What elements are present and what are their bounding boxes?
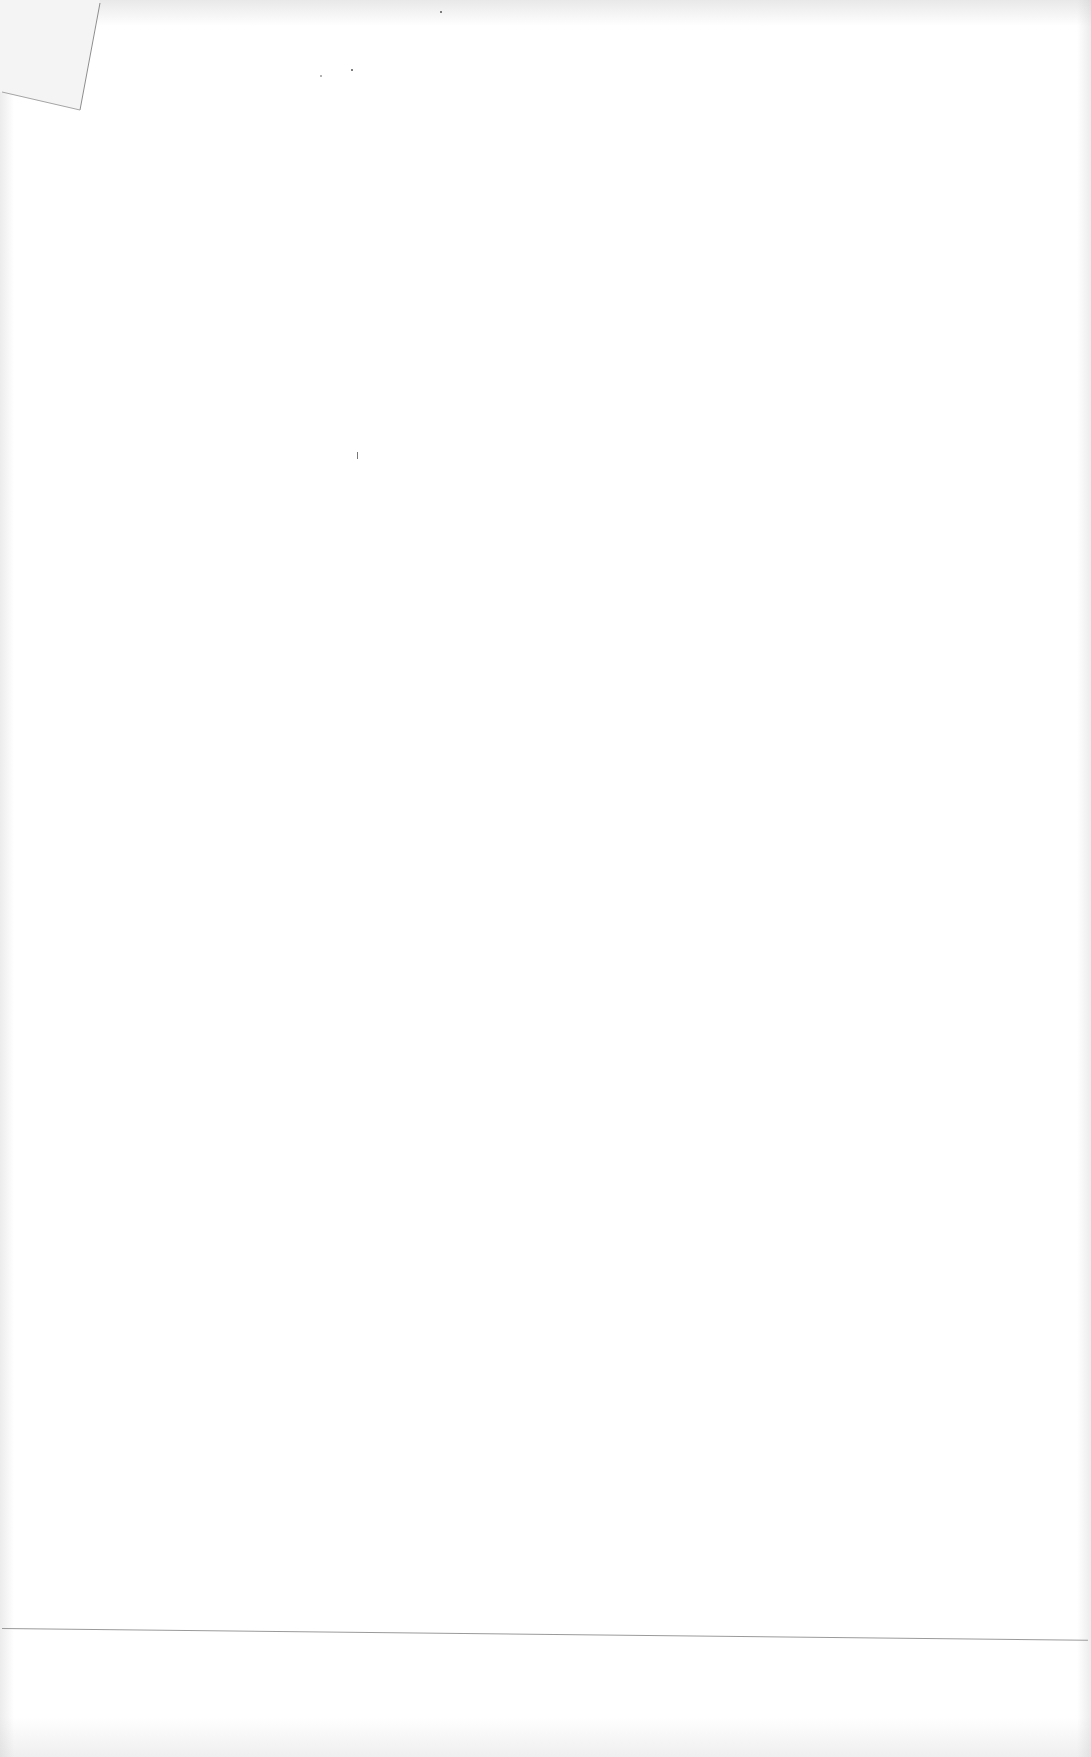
scan-mark	[357, 452, 358, 459]
scan-speck	[351, 69, 353, 71]
horizontal-rule	[2, 1628, 1088, 1641]
folded-corner	[0, 0, 110, 115]
scan-speck	[440, 11, 442, 13]
scanned-page	[0, 0, 1091, 1757]
scan-speck	[320, 75, 322, 77]
